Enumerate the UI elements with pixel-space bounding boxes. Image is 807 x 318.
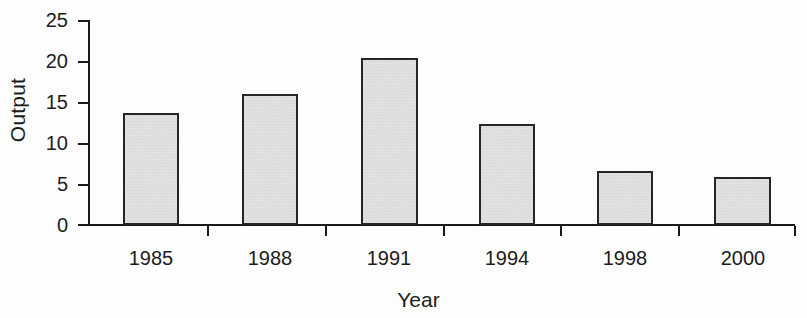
bar-1998[interactable] xyxy=(597,171,653,225)
x-label-1985: 1985 xyxy=(91,247,211,269)
x-label-1994: 1994 xyxy=(447,247,567,269)
x-tick-mark-4 xyxy=(560,226,562,236)
bar-2000[interactable] xyxy=(714,177,771,225)
bar-1991[interactable] xyxy=(361,58,418,225)
x-tick-mark-3 xyxy=(443,226,445,236)
x-label-1988: 1988 xyxy=(210,247,330,269)
y-tick-label-0: 0 xyxy=(22,215,68,235)
bar-1988[interactable] xyxy=(242,94,298,225)
x-label-1991: 1991 xyxy=(329,247,449,269)
y-tick-label-25: 25 xyxy=(22,10,68,30)
bar-1994[interactable] xyxy=(479,124,535,225)
x-axis-title: Year xyxy=(0,288,807,312)
y-axis-line xyxy=(88,20,90,226)
x-tick-mark-2 xyxy=(325,226,327,236)
x-axis-title-text: Year xyxy=(397,288,439,311)
x-label-1998: 1998 xyxy=(565,247,685,269)
bar-1985[interactable] xyxy=(123,113,179,225)
x-axis-line xyxy=(88,224,795,226)
x-label-2000: 2000 xyxy=(683,247,803,269)
y-tick-label-10: 10 xyxy=(22,133,68,153)
bar-chart: Output 25 20 15 10 5 0 1985 1988 1991 19… xyxy=(0,0,807,318)
y-tick-label-20: 20 xyxy=(22,51,68,71)
x-tick-mark-1 xyxy=(207,226,209,236)
y-tick-label-15: 15 xyxy=(22,92,68,112)
y-tick-label-5: 5 xyxy=(22,174,68,194)
x-tick-mark-5 xyxy=(678,226,680,236)
x-tick-mark-6 xyxy=(794,226,796,236)
